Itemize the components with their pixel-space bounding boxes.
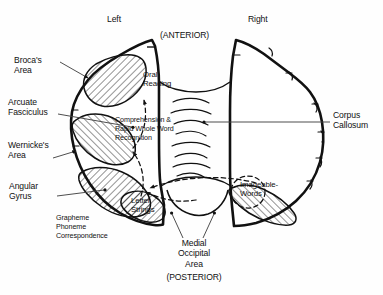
label-anterior: (ANTERIOR): [160, 30, 209, 40]
medial-occipital-bulge: [167, 190, 228, 216]
label-letter-strings: Letter Strings: [131, 196, 155, 215]
label-comprehension-rapid-whole-word-recognition: Comprehension & Rapid Whole Word Recogni…: [115, 116, 174, 142]
label-arcuate-fasciculus: Arcuate Fasciculus: [8, 97, 48, 118]
label-right-hemisphere: Right: [248, 14, 268, 24]
label-grapheme-phoneme-correspondence: Grapheme Phoneme Correspondence: [56, 214, 108, 240]
label-imageable-words: Imageable- Words: [240, 180, 278, 199]
leader-wernickes: [53, 151, 76, 158]
label-posterior: (POSTERIOR): [148, 272, 240, 282]
label-wernickes-area: Wernicke's Area: [8, 140, 49, 161]
label-medial-occipital-area: Medial Occipital Area: [158, 238, 230, 269]
brain-diagram-figure: Left Right (ANTERIOR) Broca's Area Arcua…: [0, 0, 383, 295]
callosal-fibers: [171, 98, 211, 177]
leader-medial-occipital-left: [172, 214, 183, 238]
leader-brocas: [60, 62, 88, 78]
label-angular-gyrus: Angular Gyrus: [9, 181, 38, 202]
label-brocas-area: Broca's Area: [14, 55, 42, 76]
leader-medial-occipital-right: [203, 214, 214, 238]
label-left-hemisphere: Left: [107, 14, 121, 24]
label-oral-reading: Oral Reading: [143, 70, 171, 89]
label-corpus-callosum: Corpus Callosum: [333, 110, 368, 131]
